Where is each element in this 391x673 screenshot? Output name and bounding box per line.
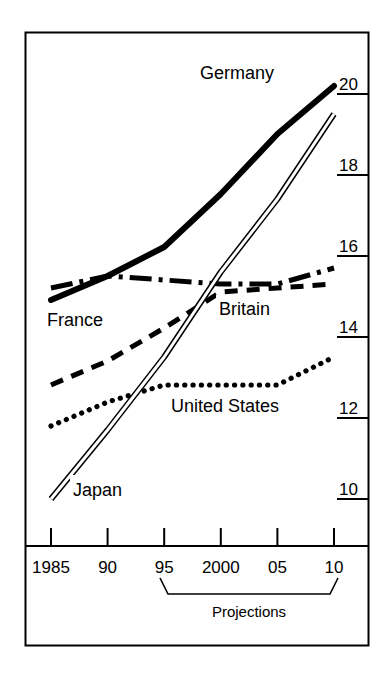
x-axis-label-05: 05	[268, 558, 287, 577]
series-label-united-states: United States	[171, 396, 279, 416]
series-label-japan: Japan	[73, 480, 122, 500]
series-label-france: France	[47, 310, 103, 330]
x-axis-label-90: 90	[98, 558, 117, 577]
line-chart: 20 18 16 14 12 10 1985 90 95 2000 05 10 …	[0, 0, 391, 673]
x-axis-label-10: 10	[325, 558, 344, 577]
x-axis-label-2000: 2000	[202, 558, 240, 577]
x-axis-label-1985: 1985	[32, 558, 70, 577]
y-axis-label-18: 18	[339, 156, 358, 175]
y-axis-label-12: 12	[339, 399, 358, 418]
y-axis-label-10: 10	[339, 480, 358, 499]
y-axis-label-16: 16	[339, 237, 358, 256]
y-axis-label-20: 20	[339, 75, 358, 94]
chart-frame	[26, 33, 369, 646]
x-axis-label-95: 95	[155, 558, 174, 577]
series-label-germany: Germany	[200, 63, 274, 83]
projections-label: Projections	[212, 603, 286, 620]
series-label-britain: Britain	[219, 299, 270, 319]
chart-container: 20 18 16 14 12 10 1985 90 95 2000 05 10 …	[0, 0, 391, 673]
y-axis-label-14: 14	[339, 318, 358, 337]
